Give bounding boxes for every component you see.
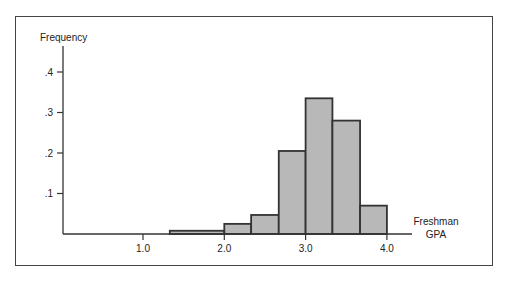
histogram-bar [251,215,279,234]
histogram-bar [306,98,333,234]
y-axis-ticks: .1.2.3.4 [45,67,63,200]
histogram-bar [360,206,387,234]
y-tick-label: .1 [45,188,54,199]
y-tick-label: .2 [45,148,54,159]
x-axis-label-line2: GPA [426,229,447,240]
x-tick-label: 1.0 [136,243,150,254]
y-tick-label: .3 [45,107,54,118]
histogram-bar [279,151,306,234]
x-tick-label: 2.0 [217,243,231,254]
x-axis-label-line1: Freshman [413,216,458,227]
x-axis-ticks: 1.02.03.04.0 [136,234,394,254]
y-axis-label: Frequency [40,32,87,43]
y-tick-label: .4 [45,67,54,78]
histogram-chart: .1.2.3.4 1.02.03.04.0 Frequency Freshman… [0,0,508,283]
histogram-bar [224,224,251,234]
x-tick-label: 3.0 [299,243,313,254]
histogram-bars [170,98,387,234]
histogram-bar [332,121,360,234]
x-tick-label: 4.0 [380,243,394,254]
